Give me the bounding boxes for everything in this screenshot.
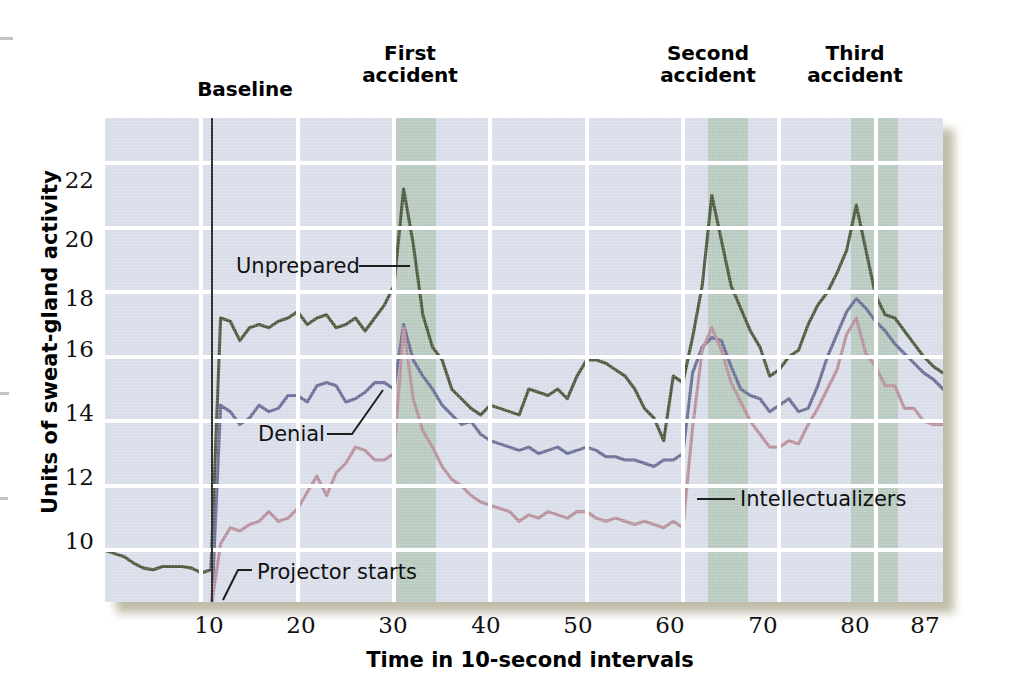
- x-tick-30: 30: [363, 612, 423, 638]
- x-axis-title: Time in 10-second intervals: [250, 648, 810, 672]
- gridline-vertical-10: [199, 118, 203, 602]
- callout-denial: Denial: [258, 422, 325, 446]
- projector-start-rule: [211, 118, 213, 602]
- gridline-vertical-80: [874, 118, 878, 602]
- x-tick-70: 70: [733, 612, 793, 638]
- callout-projector-starts: Projector starts: [257, 560, 417, 584]
- x-tick-20: 20: [271, 612, 331, 638]
- gridline-horizontal-18: [105, 290, 943, 294]
- gridline-horizontal-22: [105, 161, 943, 165]
- scan-artifact-low: [0, 497, 8, 500]
- gridline-horizontal-16: [105, 355, 943, 359]
- gridline-horizontal-20: [105, 226, 943, 230]
- x-tick-60: 60: [640, 612, 700, 638]
- annotation-third-accident: Third accident: [760, 42, 950, 87]
- y-tick-10: 10: [48, 528, 94, 554]
- gridline-vertical-30: [392, 118, 396, 602]
- gridline-vertical-50: [585, 118, 589, 602]
- x-tick-87: 87: [895, 612, 955, 638]
- x-tick-40: 40: [456, 612, 516, 638]
- x-tick-80: 80: [825, 612, 885, 638]
- x-tick-50: 50: [548, 612, 608, 638]
- annotation-first-accident: First accident: [310, 42, 510, 87]
- gridline-horizontal-14: [105, 419, 943, 423]
- gridline-vertical-20: [296, 118, 300, 602]
- series-line-unprepared: [105, 189, 943, 573]
- series-lines: [105, 118, 943, 602]
- callout-intellectualizers: Intellectualizers: [740, 487, 906, 511]
- gridline-vertical-60: [681, 118, 685, 602]
- y-axis-title: Units of sweat-gland activity: [38, 162, 62, 522]
- plot-area: [105, 118, 943, 602]
- gridline-vertical-70: [777, 118, 781, 602]
- series-line-denial: [212, 299, 943, 602]
- x-tick-10: 10: [179, 612, 239, 638]
- gridline-vertical-40: [488, 118, 492, 602]
- scan-artifact-top: [0, 37, 13, 40]
- callout-unprepared: Unprepared: [236, 254, 360, 278]
- scan-artifact-mid: [0, 392, 9, 395]
- gridline-horizontal-10: [105, 548, 943, 552]
- figure-root: Baseline First accident Second accident …: [0, 0, 1011, 692]
